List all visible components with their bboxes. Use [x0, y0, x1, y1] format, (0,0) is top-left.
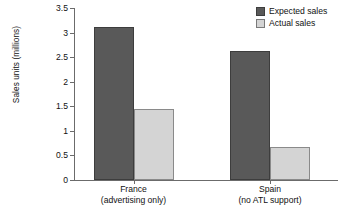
legend-swatch-icon	[256, 19, 265, 28]
plot-area: 00.511.522.533.5 France(advertising only…	[74, 8, 338, 180]
category-name: Spain	[238, 184, 301, 195]
y-tick-label: 2	[63, 77, 68, 87]
y-tick-mark	[70, 131, 74, 132]
y-tick-label: 2.5	[56, 52, 68, 62]
bar-spain-expected	[230, 51, 270, 180]
y-tick-label: 3.5	[56, 3, 68, 13]
x-axis-line	[74, 180, 338, 181]
x-axis-category-label: France(advertising only)	[101, 184, 166, 206]
category-sublabel: (advertising only)	[101, 195, 166, 206]
y-tick-mark	[70, 155, 74, 156]
y-tick-mark	[70, 180, 74, 181]
y-tick-label: 3	[63, 28, 68, 38]
bar-spain-actual	[270, 147, 310, 180]
legend-item-label: Actual sales	[269, 18, 315, 28]
category-name: France	[101, 184, 166, 195]
y-tick-mark	[70, 57, 74, 58]
y-tick-mark	[70, 82, 74, 83]
y-axis-line	[74, 8, 75, 180]
y-tick-label: 0.5	[56, 150, 68, 160]
y-tick-mark	[70, 106, 74, 107]
legend-item-expected: Expected sales	[256, 6, 327, 16]
y-tick-label: 0	[63, 175, 68, 185]
y-tick-mark	[70, 33, 74, 34]
bar-france-expected	[94, 27, 134, 180]
legend-swatch-icon	[256, 7, 265, 16]
category-sublabel: (no ATL support)	[238, 195, 301, 206]
bar-chart: Sales units (millions) 00.511.522.533.5 …	[0, 0, 348, 219]
y-axis-title: Sales units (millions)	[12, 5, 21, 125]
y-tick-mark	[70, 8, 74, 9]
legend-item-label: Expected sales	[269, 6, 327, 16]
y-tick-label: 1	[63, 126, 68, 136]
legend-item-actual: Actual sales	[256, 18, 327, 28]
x-axis-category-label: Spain(no ATL support)	[238, 184, 301, 206]
y-tick-label: 1.5	[56, 101, 68, 111]
bar-france-actual	[134, 109, 174, 180]
legend: Expected sales Actual sales	[256, 6, 327, 28]
